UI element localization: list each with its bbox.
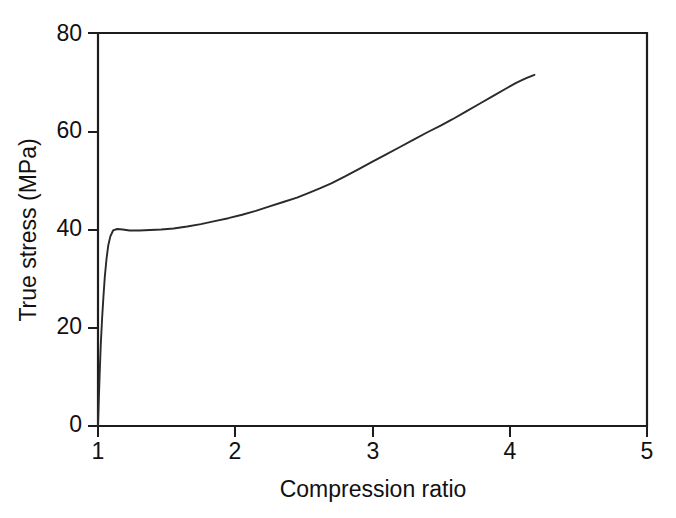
y-axis-ticks <box>88 33 98 426</box>
y-tick-label-60: 60 <box>56 117 82 143</box>
y-tick-label-40: 40 <box>56 215 82 241</box>
y-tick-label-80: 80 <box>56 20 82 46</box>
x-tick-label-4: 4 <box>504 438 517 464</box>
y-axis-tick-labels: 0 20 40 60 80 <box>56 20 82 437</box>
y-axis-title: True stress (MPa) <box>15 138 41 321</box>
plot-frame <box>98 33 647 426</box>
x-tick-label-1: 1 <box>92 438 105 464</box>
x-axis-ticks <box>98 426 647 437</box>
x-axis-title: Compression ratio <box>280 476 467 502</box>
x-axis-tick-labels: 1 2 3 4 5 <box>92 438 654 464</box>
y-tick-label-0: 0 <box>69 411 82 437</box>
chart-figure: 0 20 40 60 80 1 2 3 4 5 Compression rati… <box>0 0 676 518</box>
axis-spines <box>98 33 647 426</box>
x-tick-label-5: 5 <box>641 438 654 464</box>
stress-compression-line-chart: 0 20 40 60 80 1 2 3 4 5 Compression rati… <box>0 0 676 518</box>
x-tick-label-2: 2 <box>229 438 242 464</box>
y-tick-label-20: 20 <box>56 313 82 339</box>
stress-strain-curve <box>98 75 534 426</box>
x-tick-label-3: 3 <box>367 438 380 464</box>
